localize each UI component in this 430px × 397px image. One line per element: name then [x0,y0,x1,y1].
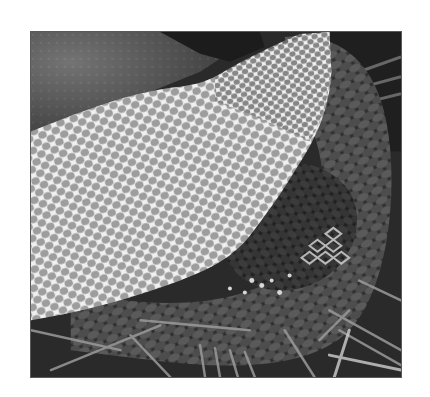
photo-illustration [31,32,401,377]
snake-shed-photo [30,31,402,378]
